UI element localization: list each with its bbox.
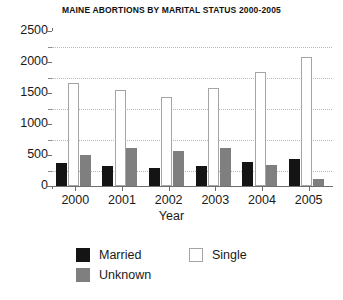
x-axis-tick bbox=[122, 186, 123, 191]
y-axis-tick bbox=[46, 93, 52, 94]
legend-label-unknown: Unknown bbox=[99, 268, 151, 282]
y-axis-tick-label: 0 bbox=[4, 178, 48, 192]
bar-unknown-2002 bbox=[173, 151, 184, 186]
y-axis-tick-minor bbox=[48, 109, 52, 110]
bar-unknown-2004 bbox=[266, 165, 277, 186]
y-axis-tick-minor bbox=[48, 78, 52, 79]
y-axis-tick-label: 500 bbox=[4, 147, 48, 161]
bar-single-2003 bbox=[208, 88, 219, 186]
y-axis-tick bbox=[46, 31, 52, 32]
y-axis-tick bbox=[46, 186, 52, 187]
chart-legend: Married Unknown Single bbox=[76, 248, 276, 290]
legend-item-single: Single bbox=[189, 248, 247, 262]
x-axis-tick-label: 2000 bbox=[52, 193, 99, 207]
bar-married-2004 bbox=[242, 162, 253, 186]
y-axis-tick-label: 1500 bbox=[4, 85, 48, 99]
y-axis-tick-label: 2500 bbox=[4, 23, 48, 37]
x-axis-title: Year bbox=[0, 209, 343, 223]
x-axis-tick-label: 2004 bbox=[239, 193, 286, 207]
legend-item-married: Married bbox=[76, 248, 141, 262]
plot-area bbox=[52, 31, 332, 186]
legend-swatch-unknown-icon bbox=[76, 268, 90, 282]
gridline-minor bbox=[52, 109, 332, 110]
bar-unknown-2000 bbox=[80, 155, 91, 186]
gridline-minor bbox=[52, 78, 332, 79]
gridline-minor bbox=[52, 140, 332, 141]
bar-single-2000 bbox=[68, 83, 79, 186]
bar-single-2001 bbox=[115, 90, 126, 186]
y-axis-tick-minor bbox=[48, 140, 52, 141]
x-axis-tick-label: 2001 bbox=[99, 193, 146, 207]
x-axis-tick-label: 2002 bbox=[145, 193, 192, 207]
y-axis-tick bbox=[46, 124, 52, 125]
gridline-minor bbox=[52, 47, 332, 48]
bar-single-2005 bbox=[301, 57, 312, 186]
y-axis-tick-minor bbox=[48, 171, 52, 172]
x-axis-tick-label: 2003 bbox=[192, 193, 239, 207]
y-axis-tick bbox=[46, 62, 52, 63]
y-axis-tick-label: 1000 bbox=[4, 116, 48, 130]
bar-unknown-2003 bbox=[220, 148, 231, 186]
bar-married-2002 bbox=[149, 168, 160, 186]
bar-chart: MAINE ABORTIONS BY MARITAL STATUS 2000-2… bbox=[0, 0, 343, 300]
chart-title: MAINE ABORTIONS BY MARITAL STATUS 2000-2… bbox=[0, 5, 343, 15]
x-axis-line bbox=[52, 186, 333, 187]
bar-single-2004 bbox=[255, 72, 266, 186]
x-axis-tick bbox=[262, 186, 263, 191]
x-axis-tick bbox=[169, 186, 170, 191]
legend-label-married: Married bbox=[99, 248, 141, 262]
legend-swatch-single-icon bbox=[189, 248, 203, 262]
y-axis-tick-labels: 05001000150020002500 bbox=[0, 0, 48, 300]
x-axis-tick bbox=[215, 186, 216, 191]
bar-unknown-2001 bbox=[126, 148, 137, 186]
legend-label-single: Single bbox=[212, 248, 247, 262]
bar-married-2001 bbox=[102, 166, 113, 186]
y-axis-tick-label: 2000 bbox=[4, 54, 48, 68]
bar-unknown-2005 bbox=[313, 179, 324, 186]
x-axis-tick-label: 2005 bbox=[285, 193, 332, 207]
bar-single-2002 bbox=[161, 97, 172, 186]
y-axis-tick-minor bbox=[48, 47, 52, 48]
bar-married-2000 bbox=[56, 163, 67, 186]
y-axis-tick bbox=[46, 155, 52, 156]
bar-married-2005 bbox=[289, 159, 300, 186]
legend-item-unknown: Unknown bbox=[76, 268, 151, 282]
legend-swatch-married-icon bbox=[76, 248, 90, 262]
x-axis-tick bbox=[75, 186, 76, 191]
x-axis-tick bbox=[309, 186, 310, 191]
bar-married-2003 bbox=[196, 166, 207, 186]
